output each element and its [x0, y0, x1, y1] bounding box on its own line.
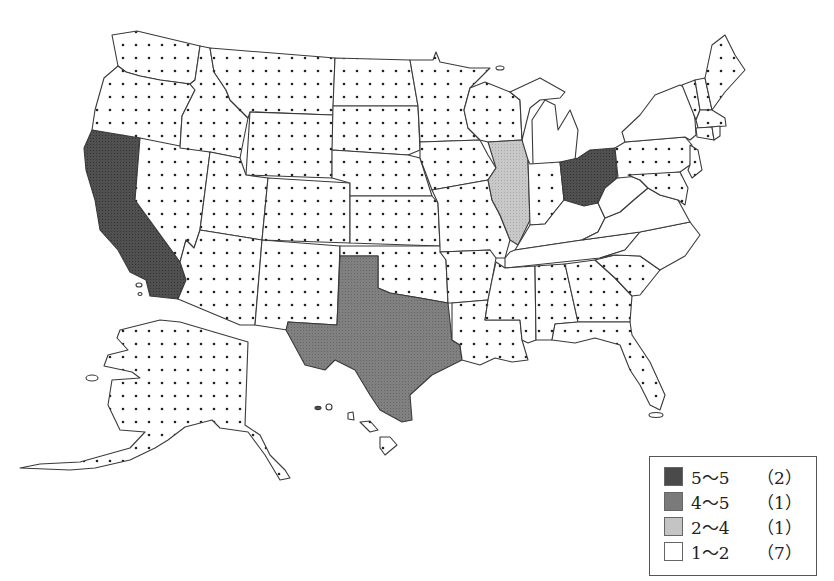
- legend-count: （1）: [757, 489, 802, 514]
- legend-count: （1）: [757, 514, 802, 539]
- legend-swatch-dark: [664, 467, 683, 486]
- legend-range: 2～4: [691, 514, 749, 539]
- island: [138, 293, 142, 296]
- island: [86, 375, 98, 381]
- state-florida: [552, 322, 665, 410]
- legend-item: 4～5 （1）: [664, 489, 816, 514]
- state-north-dakota: [333, 58, 418, 106]
- state-south-dakota: [332, 106, 420, 155]
- island: [136, 283, 142, 287]
- state-new-jersey: [688, 145, 702, 178]
- state-maine: [705, 35, 745, 110]
- legend-count: （7）: [757, 539, 802, 564]
- island: [649, 413, 663, 418]
- map-legend: 5～5 （2） 4～5 （1） 2～4 （1） 1～2 （7）: [649, 456, 817, 576]
- state-massachusetts: [696, 110, 726, 128]
- state-rhode-island: [712, 126, 720, 140]
- state-wyoming: [246, 112, 333, 178]
- state-kansas: [350, 196, 440, 246]
- legend-range: 4～5: [691, 489, 749, 514]
- island: [496, 66, 504, 70]
- legend-swatch-medium: [664, 492, 683, 511]
- legend-swatch-light: [664, 517, 683, 536]
- legend-item: 1～2 （7）: [664, 539, 816, 564]
- legend-item: 2～4 （1）: [664, 514, 816, 539]
- state-colorado: [262, 178, 350, 243]
- state-new-mexico: [255, 240, 340, 330]
- state-alaska: [20, 320, 290, 480]
- state-connecticut: [696, 127, 714, 140]
- state-arkansas: [440, 250, 496, 303]
- legend-swatch-blank: [664, 542, 683, 561]
- legend-range: 5～5: [691, 464, 749, 489]
- state-arizona: [178, 230, 262, 325]
- legend-count: （2）: [757, 464, 802, 489]
- legend-range: 1～2: [691, 539, 749, 564]
- legend-item: 5～5 （2）: [664, 464, 816, 489]
